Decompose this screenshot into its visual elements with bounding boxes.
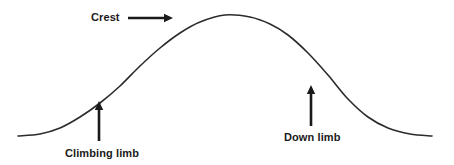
climbing-limb-arrow-icon (95, 101, 103, 141)
hydrograph-diagram: Crest Climbing limb Down limb (0, 0, 454, 165)
down-limb-arrow-icon (307, 85, 315, 126)
hydrograph-canvas (0, 0, 454, 165)
crest-arrow-icon (128, 14, 173, 22)
crest-label: Crest (91, 11, 120, 23)
hydrograph-curve (18, 15, 432, 136)
climbing-limb-label: Climbing limb (65, 147, 139, 159)
down-limb-label: Down limb (284, 131, 341, 143)
